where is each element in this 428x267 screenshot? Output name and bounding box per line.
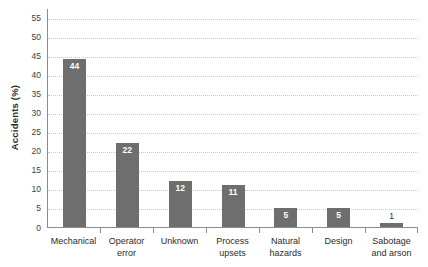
x-axis-ticks: [47, 228, 418, 234]
y-axis-tick-label: 0: [19, 223, 41, 233]
bar-value-label: 44: [70, 61, 79, 72]
bar-slot[interactable]: 5: [312, 9, 365, 227]
bar[interactable]: 44: [63, 59, 86, 227]
bar-value-label: 1: [389, 211, 394, 222]
x-axis-category-label-line: and arson: [366, 248, 417, 260]
x-axis-tick: [312, 228, 313, 233]
x-axis-category-label-line: Design: [313, 236, 364, 248]
x-axis-category-label: Processupsets: [206, 236, 259, 259]
bar-value-label: 11: [229, 187, 238, 198]
y-axis-tick-label: 10: [19, 184, 41, 194]
x-axis-category-label-line: Mechanical: [48, 236, 99, 248]
x-axis-tick: [206, 228, 207, 233]
x-axis-category-label-line: Unknown: [154, 236, 205, 248]
x-axis-category-label-line: Operator: [101, 236, 152, 248]
x-axis-category-label: Operatorerror: [100, 236, 153, 259]
bar[interactable]: 22: [116, 143, 139, 227]
y-axis-tick-label: 15: [19, 165, 41, 175]
x-axis-tick: [259, 228, 260, 233]
bar[interactable]: 12: [169, 181, 192, 227]
bar-slot[interactable]: 11: [207, 9, 260, 227]
x-axis-tick: [365, 228, 366, 233]
y-axis-tick-label: 30: [19, 108, 41, 118]
bar-series: 44221211551: [48, 9, 418, 227]
x-axis-category-label: Unknown: [153, 236, 206, 259]
bar-value-label: 12: [175, 183, 184, 194]
y-axis-tick-label: 55: [19, 13, 41, 23]
bar[interactable]: 5: [274, 208, 297, 227]
x-axis-category-label-line: hazards: [260, 248, 311, 260]
x-axis-tick: [100, 228, 101, 233]
x-axis-tick-labels: MechanicalOperatorerrorUnknownProcessups…: [47, 236, 418, 259]
y-axis-tick-label: 5: [19, 203, 41, 213]
bar-slot[interactable]: 1: [365, 9, 418, 227]
x-axis-tick: [153, 228, 154, 233]
bar-value-label: 22: [123, 145, 132, 156]
plot-area: 44221211551: [47, 9, 418, 228]
y-axis-tick-label: 20: [19, 146, 41, 156]
bar[interactable]: 11: [222, 185, 245, 227]
x-axis-tick: [417, 228, 418, 233]
bar[interactable]: 5: [327, 208, 350, 227]
x-axis-category-label: Mechanical: [47, 236, 100, 259]
y-axis-tick-label: 50: [19, 32, 41, 42]
bar-value-label: 5: [283, 210, 288, 221]
x-axis-category-label-line: Natural: [260, 236, 311, 248]
x-axis-category-label: Sabotageand arson: [365, 236, 418, 259]
bar-slot[interactable]: 12: [154, 9, 207, 227]
bar-slot[interactable]: 44: [48, 9, 101, 227]
y-axis-tick-label: 25: [19, 127, 41, 137]
x-axis-category-label: Naturalhazards: [259, 236, 312, 259]
x-axis-category-label-line: Sabotage: [366, 236, 417, 248]
x-axis-category-label-line: error: [101, 248, 152, 260]
y-axis-tick-label: 45: [19, 51, 41, 61]
bar[interactable]: 1: [380, 223, 403, 227]
y-axis-tick-label: 35: [19, 89, 41, 99]
bar-slot[interactable]: 22: [101, 9, 154, 227]
x-axis-category-label: Design: [312, 236, 365, 259]
x-axis-category-label-line: Process: [207, 236, 258, 248]
bar-value-label: 5: [336, 210, 341, 221]
y-axis-tick-label: 40: [19, 70, 41, 80]
x-axis-category-label-line: upsets: [207, 248, 258, 260]
bar-slot[interactable]: 5: [259, 9, 312, 227]
chart-container: Accidents (%) 0510152025303540455055 442…: [0, 0, 428, 267]
